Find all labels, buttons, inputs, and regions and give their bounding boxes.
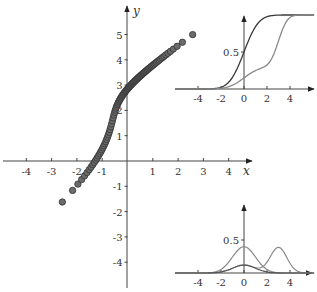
inset-x-tick: 0 <box>241 277 247 288</box>
pdf-y-tick: 0.5 <box>223 235 239 246</box>
x-tick-label: 3 <box>200 166 206 177</box>
cdf-inset: 0.5 -4-2024 <box>175 15 314 104</box>
y-tick-label: 4 <box>116 55 122 66</box>
inset-x-tick: -2 <box>216 277 226 288</box>
x-tick-label: 2 <box>175 166 181 177</box>
y-tick-label: 3 <box>116 80 122 91</box>
inset-x-tick: -4 <box>193 277 203 288</box>
y-tick-label: 1 <box>116 131 122 142</box>
x-tick-label: -4 <box>21 166 31 177</box>
y-tick-label: -2 <box>113 207 123 218</box>
cdf-y-tick: 0.5 <box>223 47 239 58</box>
main-axes: -4-3-2-11234 -4-3-2-112345 x y <box>3 4 252 288</box>
inset-x-tick: -4 <box>193 93 203 104</box>
inset-x-tick: 2 <box>264 93 270 104</box>
inset-x-tick: 0 <box>241 93 247 104</box>
x-tick-label: 4 <box>226 166 232 177</box>
x-tick-label: -1 <box>97 166 107 177</box>
x-tick-label: -3 <box>47 166 57 177</box>
y-tick-label: -4 <box>113 257 123 268</box>
y-tick-label: 5 <box>116 30 122 41</box>
y-tick-label: -1 <box>113 181 123 192</box>
inset-x-tick: 4 <box>287 93 293 104</box>
x-axis-label: x <box>243 164 250 178</box>
x-tick-label: 1 <box>150 166 156 177</box>
inset-x-tick: 4 <box>287 277 293 288</box>
y-axis-label: y <box>132 4 140 18</box>
chart-canvas: -4-3-2-11234 -4-3-2-112345 x y 0.5 -4-20… <box>0 0 317 292</box>
inset-x-tick: -2 <box>216 93 226 104</box>
x-tick-label: -2 <box>72 166 82 177</box>
y-tick-label: -3 <box>113 232 123 243</box>
pdf-inset: 0.5 -4-2024 <box>175 205 314 288</box>
inset-x-tick: 2 <box>264 277 270 288</box>
